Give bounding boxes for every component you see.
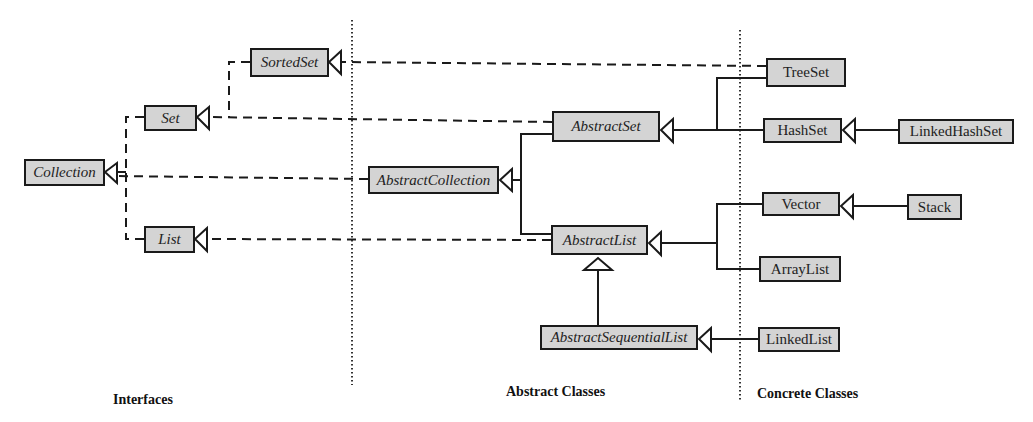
- edge-set-collection: [126, 117, 144, 172]
- node-abstractlist: AbstractList: [551, 225, 648, 255]
- node-linkedhashset: LinkedHashSet: [898, 119, 1014, 144]
- collection-hierarchy-diagram: Collection Set SortedSet List AbstractCo…: [0, 0, 1033, 422]
- edge-treeset-abstractset: [717, 78, 766, 130]
- edge-abstractset-set: [210, 117, 552, 122]
- node-abstractset: AbstractSet: [552, 111, 660, 142]
- arrowhead-hashset: [843, 119, 855, 142]
- edge-abstractset-abstractcollection: [521, 134, 552, 180]
- edge-sortedset-set: [229, 62, 250, 117]
- node-list: List: [144, 226, 195, 253]
- edge-list-collection: [126, 172, 144, 239]
- arrowhead-vector: [841, 195, 853, 218]
- arrowhead-collection: [105, 163, 117, 183]
- connector-layer: [0, 0, 1033, 422]
- edge-abstractlist-list: [207, 239, 551, 240]
- node-set: Set: [144, 105, 197, 131]
- arrowhead-sortedset: [329, 51, 341, 74]
- node-abstractsequentiallist: AbstractSequentialList: [540, 325, 698, 350]
- edge-treeset-sortedset: [342, 62, 766, 66]
- edge-arraylist-abstractlist: [717, 243, 759, 269]
- edge-abstractcollection-collection: [117, 176, 368, 179]
- node-vector: Vector: [762, 192, 840, 216]
- arrowhead-abstractlist-bottom: [584, 258, 612, 270]
- arrowhead-abstractsequentiallist: [699, 328, 711, 351]
- section-label-concrete-classes: Concrete Classes: [757, 386, 858, 402]
- arrowhead-abstractlist: [649, 232, 661, 255]
- arrowhead-abstractset: [661, 119, 673, 142]
- node-arraylist: ArrayList: [759, 256, 841, 282]
- arrowhead-abstractcollection: [500, 169, 512, 191]
- node-collection: Collection: [24, 159, 105, 186]
- section-label-interfaces: Interfaces: [113, 392, 173, 408]
- node-treeset: TreeSet: [766, 58, 846, 87]
- node-abstractcollection: AbstractCollection: [368, 166, 499, 194]
- node-hashset: HashSet: [763, 118, 842, 143]
- node-linkedlist: LinkedList: [758, 327, 840, 352]
- node-stack: Stack: [907, 194, 962, 220]
- arrowhead-list: [195, 228, 207, 251]
- arrowhead-set: [197, 107, 209, 129]
- edge-abstractlist-abstractcollection: [521, 180, 551, 234]
- section-label-abstract-classes: Abstract Classes: [506, 384, 605, 400]
- node-sortedset: SortedSet: [250, 48, 329, 77]
